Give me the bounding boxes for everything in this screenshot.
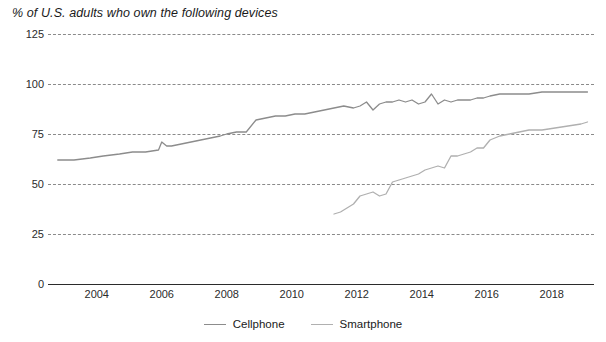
legend-label-smartphone: Smartphone [340, 318, 403, 330]
gridline-0 [48, 284, 594, 285]
x-tick-2018: 2018 [540, 288, 564, 300]
x-tick-2006: 2006 [150, 288, 174, 300]
x-tick-2016: 2016 [475, 288, 499, 300]
legend-swatch-smartphone [311, 324, 333, 325]
chart-container: % of U.S. adults who own the following d… [0, 0, 606, 342]
chart-legend: Cellphone Smartphone [0, 318, 606, 330]
x-axis-tick-labels: 20042006200820102012201420162018 [48, 288, 594, 304]
series-line-smartphone [334, 122, 588, 214]
x-tick-2008: 2008 [215, 288, 239, 300]
y-axis-tick-labels: 0255075100125 [0, 34, 44, 284]
legend-item-smartphone: Smartphone [311, 318, 403, 330]
y-tick-75: 75 [10, 128, 44, 140]
x-tick-2010: 2010 [280, 288, 304, 300]
y-tick-25: 25 [10, 228, 44, 240]
x-tick-2012: 2012 [345, 288, 369, 300]
y-tick-100: 100 [10, 78, 44, 90]
legend-label-cellphone: Cellphone [233, 318, 285, 330]
y-tick-50: 50 [10, 178, 44, 190]
plot-area [48, 34, 594, 284]
chart-title: % of U.S. adults who own the following d… [12, 6, 278, 20]
x-tick-2004: 2004 [85, 288, 109, 300]
x-tick-2014: 2014 [410, 288, 434, 300]
y-tick-0: 0 [10, 278, 44, 290]
series-line-cellphone [58, 92, 588, 160]
series-lines [48, 34, 594, 284]
y-tick-125: 125 [10, 28, 44, 40]
legend-item-cellphone: Cellphone [204, 318, 285, 330]
legend-swatch-cellphone [204, 324, 226, 325]
